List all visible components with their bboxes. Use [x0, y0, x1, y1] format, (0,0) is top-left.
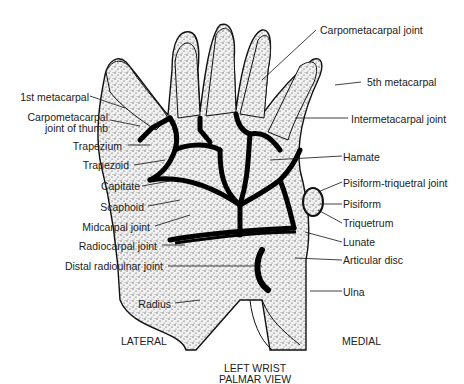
label-intermetacarpal-joint: Intermetacarpal joint: [351, 113, 446, 125]
label-radius: Radius: [138, 298, 171, 310]
label-5th-metacarpal: 5th metacarpal: [367, 76, 436, 88]
label-midcarpal-joint: Midcarpal joint: [82, 221, 150, 233]
label-hamate: Hamate: [343, 151, 380, 163]
label-radiocarpal-joint: Radiocarpal joint: [79, 240, 157, 252]
label-carpometacarpal-joint: Carpometacarpal joint: [320, 24, 423, 36]
label-trapezoid: Trapezoid: [83, 159, 129, 171]
label-distal-radioulnar-joint: Distal radioulnar joint: [65, 260, 163, 272]
label-carpometacarpal-thumb-line2: joint of thumb: [45, 122, 108, 134]
label-ulna: Ulna: [343, 286, 365, 298]
label-triquetrum: Triquetrum: [343, 217, 393, 229]
label-medial: MEDIAL: [342, 335, 381, 347]
caption-line2: PALMAR VIEW: [200, 373, 310, 384]
label-scaphoid: Scaphoid: [100, 201, 144, 213]
label-articular-disc: Articular disc: [343, 254, 403, 266]
label-lunate: Lunate: [343, 236, 375, 248]
wrist-anatomy-diagram: 1st metacarpal Carpometacarpal joint of …: [0, 0, 464, 384]
wrist-illustration: [0, 0, 464, 384]
label-capitate: Capitate: [101, 180, 140, 192]
label-1st-metacarpal: 1st metacarpal: [20, 91, 89, 103]
label-trapezium: Trapezium: [73, 140, 122, 152]
label-lateral: LATERAL: [121, 335, 167, 347]
label-pisiform: Pisiform: [343, 198, 381, 210]
label-pisiform-triquetral-joint: Pisiform-triquetral joint: [343, 177, 447, 189]
